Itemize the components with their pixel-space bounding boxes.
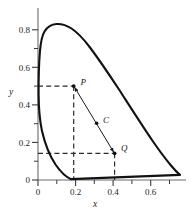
- x-tick-label-0: 0: [36, 187, 41, 197]
- y-tick-label-0.4: 0.4: [19, 100, 31, 110]
- y-tick-label-0.8: 0.8: [19, 25, 31, 35]
- point-label-p: P: [80, 77, 87, 87]
- y-tick-label-0.2: 0.2: [19, 138, 30, 148]
- x-tick-label-0.6: 0.6: [145, 187, 157, 197]
- x-tick-label-0.4: 0.4: [107, 187, 119, 197]
- point-marker-p[interactable]: [72, 84, 76, 88]
- y-tick-label-0.6: 0.6: [19, 63, 31, 73]
- chromaticity-diagram-figure: 0 0.2 0.4 0.6 0.8 0 0.2 0.4 0.6 y x: [0, 0, 192, 211]
- y-tick-label-0: 0: [26, 175, 31, 185]
- point-label-q: Q: [121, 143, 128, 153]
- point-marker-c[interactable]: [95, 122, 99, 126]
- point-label-c: C: [103, 115, 110, 125]
- point-marker-q[interactable]: [113, 151, 117, 155]
- x-axis-title: x: [92, 199, 98, 209]
- y-axis-title: y: [8, 87, 14, 97]
- chromaticity-diagram-svg: 0 0.2 0.4 0.6 0.8 0 0.2 0.4 0.6 y x: [0, 0, 192, 211]
- x-tick-label-0.2: 0.2: [70, 187, 81, 197]
